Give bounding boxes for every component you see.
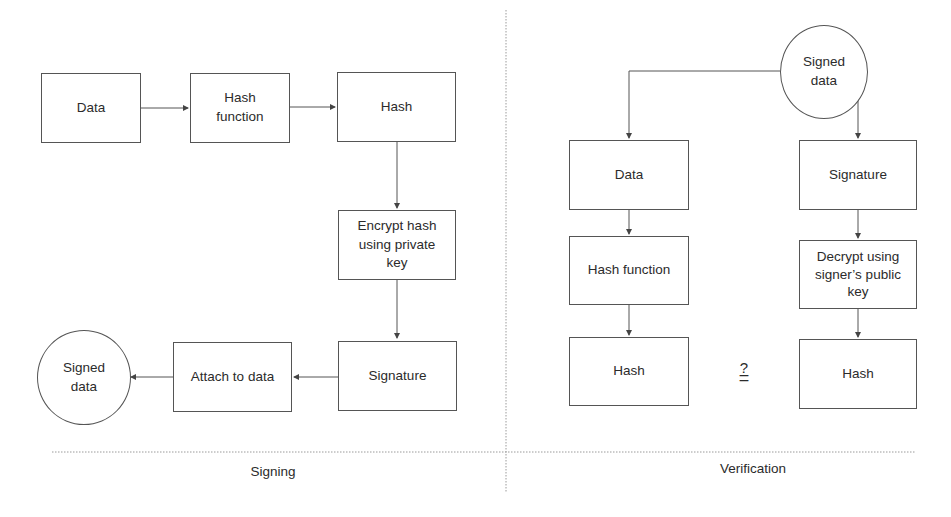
equals-sign: =	[736, 369, 752, 387]
node-hash: Hash	[337, 72, 456, 142]
node-label: Data	[77, 99, 106, 118]
section-label-signing: Signing	[250, 464, 295, 479]
arrow-signed-data-to-data	[629, 71, 780, 138]
node-label: Data	[615, 166, 644, 185]
node-label: Hash	[381, 98, 413, 117]
section-label-verification: Verification	[720, 461, 786, 476]
node-data: Data	[569, 140, 689, 210]
node-label: Signed data	[803, 53, 845, 91]
node-hash-function: Hash function	[190, 73, 290, 143]
node-label: Signature	[369, 367, 427, 386]
node-label: Attach to data	[191, 368, 274, 387]
node-label: Hash function	[588, 261, 671, 280]
node-signed-data: Signed data	[780, 25, 868, 119]
node-label: Signature	[829, 166, 887, 185]
node-hash-function: Hash function	[569, 236, 689, 305]
node-hash-decrypted: Hash	[799, 339, 917, 409]
node-hash-computed: Hash	[569, 337, 689, 406]
node-label: Hash function	[216, 89, 263, 127]
node-decrypt: Decrypt using signer’s public key	[799, 240, 917, 309]
node-label: Encrypt hash using private key	[358, 217, 437, 274]
node-label: Decrypt using signer’s public key	[815, 248, 901, 301]
node-label: Signed data	[63, 359, 105, 397]
node-signature: Signature	[799, 140, 917, 210]
comparison-symbol: ? =	[736, 360, 752, 387]
node-data: Data	[41, 73, 141, 143]
node-attach-to-data: Attach to data	[173, 342, 292, 412]
node-label: Hash	[613, 362, 645, 381]
node-label: Hash	[842, 365, 874, 384]
node-encrypt-hash: Encrypt hash using private key	[338, 210, 456, 280]
node-signature: Signature	[338, 341, 457, 411]
node-signed-data: Signed data	[37, 330, 131, 425]
